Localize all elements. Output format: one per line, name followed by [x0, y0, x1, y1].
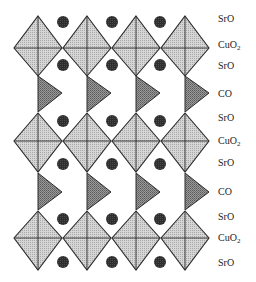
- sr-atom: [57, 213, 69, 225]
- sr-atom: [106, 158, 118, 170]
- layer-label-cuo: CuO2: [218, 233, 240, 245]
- sr-atom: [57, 158, 69, 170]
- layer-formula-subscript: 2: [237, 140, 241, 148]
- layer-label-cuo: CuO2: [218, 136, 240, 148]
- cuo6-octahedron: [161, 113, 209, 172]
- layer-formula-subscript: 2: [237, 237, 241, 245]
- co3-triangle: [136, 76, 160, 112]
- layer-formula: CuO: [218, 232, 237, 243]
- cuo6-octahedron: [112, 16, 160, 76]
- cuo6-octahedron: [14, 113, 62, 172]
- sr-atom: [154, 213, 166, 225]
- layer-label-sro: SrO: [218, 258, 234, 268]
- cuo-octahedra: [14, 16, 209, 270]
- sr-atom: [154, 59, 166, 71]
- layer-formula: SrO: [218, 157, 234, 168]
- cuo6-octahedron: [14, 16, 62, 76]
- sr-atom: [106, 115, 118, 127]
- sr-atom: [57, 16, 69, 28]
- layer-label-sro: SrO: [218, 14, 234, 24]
- sr-atom: [154, 115, 166, 127]
- layer-formula: SrO: [218, 257, 234, 268]
- layer-label-sro: SrO: [218, 158, 234, 168]
- sr-atom: [154, 16, 166, 28]
- layer-formula: CuO: [218, 39, 237, 50]
- co3-triangle: [185, 76, 209, 112]
- layer-formula: SrO: [218, 112, 234, 123]
- co3-triangle: [87, 173, 111, 210]
- co3-triangle: [38, 76, 62, 112]
- layer-label-sro: SrO: [218, 61, 234, 71]
- sr-atom: [57, 59, 69, 71]
- layer-label-sro: SrO: [218, 113, 234, 123]
- layer-formula: CO: [218, 186, 232, 197]
- sr-atom: [106, 59, 118, 71]
- sr-atom: [106, 213, 118, 225]
- cuo6-octahedron: [161, 16, 209, 76]
- sr-atom: [57, 256, 69, 268]
- sr-atom: [154, 256, 166, 268]
- layer-label-co: CO: [218, 89, 232, 99]
- layer-label-co: CO: [218, 187, 232, 197]
- layer-formula: CO: [218, 88, 232, 99]
- cuo6-octahedron: [161, 211, 209, 270]
- sr-atom: [154, 158, 166, 170]
- co3-triangle: [185, 173, 209, 210]
- co3-triangle: [38, 173, 62, 210]
- layer-formula: SrO: [218, 13, 234, 24]
- layer-formula: CuO: [218, 135, 237, 146]
- sr-atom: [106, 256, 118, 268]
- cuo6-octahedron: [63, 16, 111, 76]
- co3-triangle: [87, 76, 111, 112]
- layer-formula: SrO: [218, 60, 234, 71]
- cuo6-octahedron: [112, 211, 160, 270]
- layer-label-sro: SrO: [218, 212, 234, 222]
- layer-formula: SrO: [218, 211, 234, 222]
- cuo6-octahedron: [63, 113, 111, 172]
- cuo6-octahedron: [112, 113, 160, 172]
- cuo6-octahedron: [14, 211, 62, 270]
- co3-triangle: [136, 173, 160, 210]
- layer-label-cuo: CuO2: [218, 40, 240, 52]
- cuo6-octahedron: [63, 211, 111, 270]
- sr-atom: [106, 16, 118, 28]
- sr-atom: [57, 115, 69, 127]
- layer-formula-subscript: 2: [237, 44, 241, 52]
